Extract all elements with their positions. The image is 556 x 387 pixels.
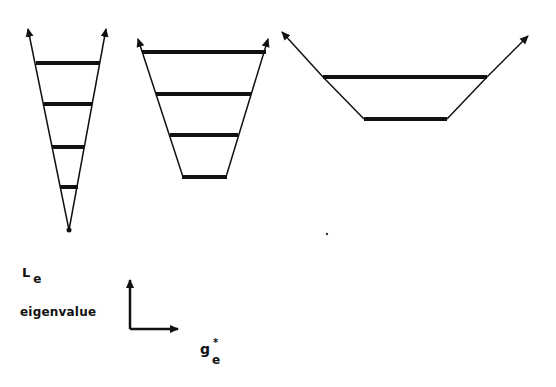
y-axis-label: Le — [22, 265, 41, 284]
narrow-well-diagram — [28, 29, 106, 233]
axis-key-arrows — [130, 280, 178, 329]
wide-well-diagram — [282, 32, 528, 119]
stray-dot — [326, 233, 328, 235]
y-axis-description: eigenvalue — [20, 305, 96, 319]
superscript-dot: * — [213, 337, 218, 348]
x-axis-label: g*e — [200, 341, 220, 361]
medium-well-diagram — [138, 39, 268, 177]
well-diagrams — [0, 0, 556, 387]
